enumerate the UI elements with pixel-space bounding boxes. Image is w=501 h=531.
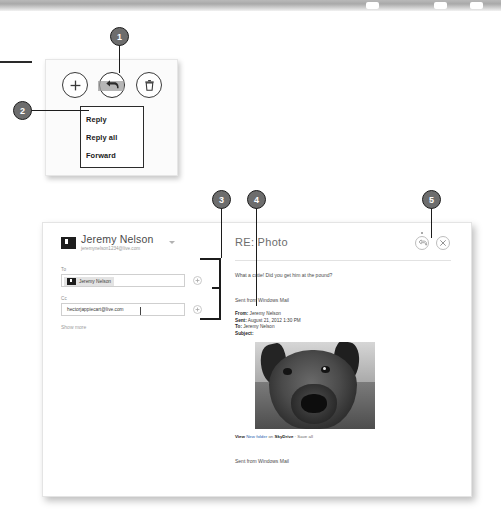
app-bar-panel: Reply Reply all Forward [45, 59, 178, 176]
quoted-to-value: Jeremy Nelson [243, 324, 274, 329]
attachment-actions: View New folder on SkyDrive · Save all [235, 434, 313, 439]
folder-link[interactable]: New folder [246, 434, 267, 439]
callout-2: 2 [13, 101, 32, 120]
chevron-down-icon[interactable] [169, 241, 175, 244]
callout-leader-3 [221, 208, 223, 258]
cc-field-value: hectorjappiecart@live.com [67, 307, 124, 312]
contact-avatar-icon [67, 278, 76, 285]
message-pane: RE: Photo What a cutie! Did you get him … [215, 223, 471, 496]
quoted-sent-value: August 21, 2012 1:30 PM [248, 318, 301, 323]
dog-photo [255, 342, 375, 429]
close-button[interactable] [436, 236, 450, 250]
callout-leader-2 [31, 110, 89, 112]
page-rule [0, 61, 32, 63]
reply-body-text[interactable]: What a cutie! Did you get him at the pou… [235, 272, 332, 278]
plus-icon [69, 79, 82, 92]
skydrive-link[interactable]: SkyDrive [275, 434, 294, 439]
separator: · [295, 434, 296, 439]
account-header[interactable]: Jeremy Nelson jeremynelson1234@live.com [61, 234, 201, 258]
menu-item-forward[interactable]: Forward [86, 151, 116, 160]
figure-page: Reply Reply all Forward 1 2 3 4 5 Jeremy… [0, 0, 501, 531]
reply-menu[interactable]: Reply Reply all Forward [80, 106, 144, 168]
callout-3: 3 [212, 190, 231, 209]
send-icon-dot [421, 232, 423, 234]
menu-item-reply[interactable]: Reply [86, 115, 107, 124]
app-bar-icons [46, 68, 177, 104]
signature-top: Sent from Windows Mail [235, 297, 289, 303]
callout-4: 4 [247, 190, 266, 209]
cc-field-label: Cc [61, 296, 67, 301]
callout-leader-1 [119, 45, 121, 73]
new-mail-button[interactable] [62, 72, 88, 98]
recipient-chip[interactable]: Jeremy Nelson [64, 277, 114, 286]
quoted-subject-label: Subject: [235, 331, 254, 336]
close-icon [439, 239, 447, 247]
callout-leader-4 [256, 208, 258, 306]
quoted-to-label: To: [235, 324, 242, 329]
quoted-from-label: From: [235, 311, 248, 316]
menu-item-reply-all[interactable]: Reply all [86, 133, 117, 142]
send-button[interactable] [415, 236, 429, 250]
callout-leader-5 [431, 208, 433, 238]
view-link[interactable]: View [235, 434, 245, 439]
callout-5: 5 [422, 190, 441, 209]
on-word: on [268, 434, 273, 439]
account-name: Jeremy Nelson [81, 233, 154, 245]
signature-bottom: Sent from Windows Mail [235, 458, 289, 464]
text-cursor [140, 307, 141, 315]
recipients-pane: Jeremy Nelson jeremynelson1234@live.com … [43, 223, 215, 496]
reply-arrow-icon [105, 79, 120, 92]
header-divider [235, 260, 451, 261]
quoted-sent-label: Sent: [235, 318, 247, 323]
avatar [61, 237, 76, 249]
show-more-link[interactable]: Show more [61, 324, 86, 330]
trash-icon [144, 79, 155, 92]
quoted-from-value: Jeremy Nelson [250, 311, 281, 316]
subject-line: RE: Photo [235, 236, 288, 248]
send-icon [418, 239, 427, 248]
quoted-message-header: From: Jeremy Nelson Sent: August 21, 201… [235, 311, 301, 337]
cc-field[interactable]: hectorjappiecart@live.com [61, 303, 185, 316]
to-field[interactable]: Jeremy Nelson [61, 274, 185, 287]
scan-edge-artifact [0, 0, 501, 11]
delete-button[interactable] [136, 72, 162, 98]
respond-button[interactable] [99, 72, 125, 98]
recipient-chip-label: Jeremy Nelson [79, 279, 111, 284]
save-all-link[interactable]: Save all [297, 434, 313, 439]
callout-1: 1 [110, 27, 129, 46]
callout-bracket-3 [200, 258, 221, 320]
account-email: jeremynelson1234@live.com [81, 246, 140, 251]
to-field-label: To [61, 267, 66, 272]
